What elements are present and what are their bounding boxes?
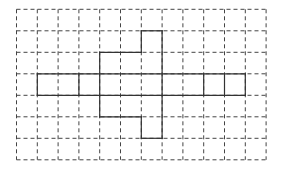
grid-diagram-svg [0,0,283,171]
solid-figure-outline [37,31,245,139]
grid-diagram [0,0,283,171]
